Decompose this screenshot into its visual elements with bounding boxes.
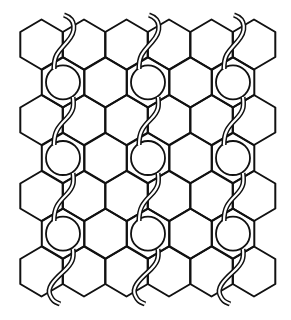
ring-circle xyxy=(46,141,80,175)
ring-circle xyxy=(216,217,250,251)
ring-circle xyxy=(131,141,165,175)
ring-circle xyxy=(131,65,165,99)
ring-circle xyxy=(46,65,80,99)
ring-group xyxy=(46,65,250,250)
ring-circle xyxy=(216,65,250,99)
hexagon-lattice-diagram xyxy=(0,0,291,320)
ring-circle xyxy=(131,217,165,251)
ring-circle xyxy=(46,217,80,251)
ring-circle xyxy=(216,141,250,175)
